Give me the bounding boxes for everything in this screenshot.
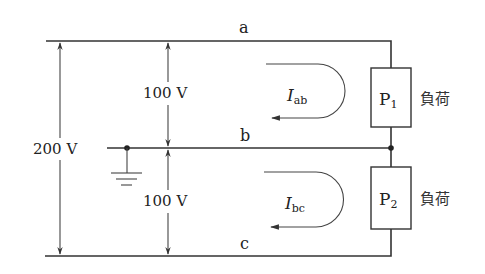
- node-label-c: c: [240, 234, 249, 253]
- line-b: [107, 127, 394, 167]
- current-loop-bc-icon: [264, 172, 344, 227]
- load-p1-label: 負荷: [420, 90, 450, 108]
- ground-icon: [111, 145, 142, 185]
- load-p2: P2: [371, 167, 411, 229]
- junction-dot: [388, 145, 394, 151]
- current-label-ab: Iab: [286, 85, 307, 107]
- load-p2-label: 負荷: [420, 190, 450, 208]
- line-a: [46, 41, 391, 68]
- current-loop-ab-icon: [266, 64, 345, 118]
- node-label-a: a: [239, 18, 249, 37]
- current-label-bc: Ibc: [284, 193, 305, 215]
- line-c: [45, 229, 391, 256]
- node-label-b: b: [240, 126, 250, 145]
- voltage-label-total: 200 V: [33, 140, 78, 158]
- voltage-label-upper: 100 V: [143, 84, 188, 102]
- voltage-label-lower: 100 V: [143, 192, 188, 210]
- load-p1: P1: [371, 68, 411, 127]
- circuit-diagram: 200 V 100 V 100 V a b c Iab Ibc P1 負荷 P2…: [0, 0, 485, 274]
